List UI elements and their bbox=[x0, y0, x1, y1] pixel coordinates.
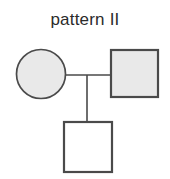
pedigree-figure: pattern II bbox=[0, 0, 170, 179]
individual-father-shaded-square bbox=[111, 50, 158, 97]
individual-child-unshaded-square bbox=[64, 122, 112, 172]
individual-mother-shaded-circle bbox=[17, 50, 66, 99]
pedigree-diagram bbox=[0, 0, 170, 179]
